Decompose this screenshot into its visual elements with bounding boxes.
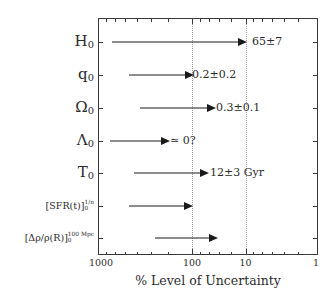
ylabel-q0-subscript: 0 xyxy=(88,72,94,83)
ytick-h0 xyxy=(98,42,103,43)
xtick-minor xyxy=(137,252,138,256)
arrow-t0-shaft xyxy=(134,173,202,174)
annotation-q0: 0.2±0.2 xyxy=(192,68,236,81)
arrow-h0-shaft xyxy=(112,42,240,43)
x-axis-title: % Level of Uncertainty xyxy=(98,273,318,288)
ytick-right-sfr xyxy=(313,206,318,207)
xtick-major-100 xyxy=(192,249,193,255)
ytick-sfr xyxy=(98,206,103,207)
ylabel-q0: q0 xyxy=(78,67,94,84)
xtick-minor xyxy=(200,252,201,256)
annotation-h0: 65±7 xyxy=(252,35,282,48)
xtick-top-major xyxy=(98,18,99,24)
arrow-lambda0-head xyxy=(161,137,170,145)
xtick-top-minor xyxy=(253,18,254,22)
ylabel-lambda0-subscript: 0 xyxy=(88,138,94,149)
arrow-q0-shaft xyxy=(129,75,187,76)
xtick-minor xyxy=(272,252,273,256)
ytick-right-density xyxy=(313,238,318,239)
xtick-top-minor xyxy=(209,18,210,22)
ytick-right-t0 xyxy=(313,173,318,174)
plot-frame xyxy=(98,18,318,255)
xtick-minor xyxy=(115,252,116,256)
xtick-top-major xyxy=(246,18,247,24)
xtick-minor xyxy=(151,252,152,256)
ytick-omega0 xyxy=(98,108,103,109)
xtick-major-10 xyxy=(246,249,247,255)
ylabel-h0: H0 xyxy=(75,34,94,51)
arrow-omega0-shaft xyxy=(140,108,209,109)
xtick-major-1000 xyxy=(98,249,99,255)
ylabel-omega0: Ω0 xyxy=(75,100,94,117)
xtick-top-minor xyxy=(115,18,116,22)
ytick-right-h0 xyxy=(313,42,318,43)
annotation-t0: 12±3 Gyr xyxy=(210,166,264,179)
ytick-right-omega0 xyxy=(313,108,318,109)
gridline-10 xyxy=(246,18,247,255)
xtick-top-minor xyxy=(231,18,232,22)
xtick-minor xyxy=(298,252,299,256)
ytick-right-lambda0 xyxy=(313,141,318,142)
ylabel-h0-symbol: H xyxy=(75,32,88,50)
xtick-minor xyxy=(168,252,169,256)
xtick-minor xyxy=(284,252,285,256)
arrow-omega0-head xyxy=(207,104,216,112)
ylabel-sfr-symbol: [SFR(t)] xyxy=(46,200,85,211)
xtick-top-minor xyxy=(168,18,169,22)
ylabel-density: [Δρ/ρ(R)]100 Mpc0 xyxy=(25,232,94,244)
ylabel-density-superscript: 100 Mpc xyxy=(68,231,94,237)
xticklabel-1: 1 xyxy=(313,257,319,268)
xtick-minor xyxy=(219,252,220,256)
ylabel-density-symbol: [Δρ/ρ(R)] xyxy=(25,232,68,243)
xtick-top-minor xyxy=(284,18,285,22)
arrow-density-shaft xyxy=(155,238,211,239)
ytick-lambda0 xyxy=(98,141,103,142)
ylabel-sfr-subsup: 1/n0 xyxy=(84,199,94,211)
xtick-top-minor xyxy=(219,18,220,22)
ytick-density xyxy=(98,238,103,239)
xtick-top-minor xyxy=(298,18,299,22)
ylabel-sfr-subscript: 0 xyxy=(84,205,94,211)
ylabel-density-subsup: 100 Mpc0 xyxy=(68,231,94,243)
xtick-minor xyxy=(231,252,232,256)
arrow-sfr-shaft xyxy=(129,206,186,207)
arrow-t0-head xyxy=(200,169,209,177)
ylabel-h0-subscript: 0 xyxy=(88,39,94,50)
arrow-density-head xyxy=(209,234,218,242)
xtick-top-minor xyxy=(262,18,263,22)
xtick-top-minor xyxy=(137,18,138,22)
xticklabel-10: 10 xyxy=(239,257,251,268)
ylabel-lambda0-symbol: Λ xyxy=(77,131,88,149)
ylabel-omega0-symbol: Ω xyxy=(75,98,87,116)
xtick-minor xyxy=(106,252,107,256)
uncertainty-chart-figure: H0 q0 Ω0 Λ0 T0 [SFR(t)]1/n0 [Δρ/ρ(R)]100… xyxy=(0,0,334,298)
xtick-top-minor xyxy=(125,18,126,22)
xtick-minor xyxy=(253,252,254,256)
xtick-top-minor xyxy=(200,18,201,22)
xtick-top-minor xyxy=(272,18,273,22)
ylabel-t0-symbol: T xyxy=(78,163,88,181)
ytick-right-q0 xyxy=(313,75,318,76)
xticklabel-1000: 1000 xyxy=(89,257,113,268)
ylabel-sfr: [SFR(t)]1/n0 xyxy=(46,200,94,212)
xticklabel-100: 100 xyxy=(183,257,201,268)
ylabel-t0: T0 xyxy=(78,165,94,182)
ylabel-q0-symbol: q xyxy=(78,65,88,83)
xtick-minor xyxy=(125,252,126,256)
annotation-lambda0: ≃ 0? xyxy=(170,134,196,147)
ylabel-density-subscript: 0 xyxy=(68,237,94,243)
arrow-lambda0-shaft xyxy=(110,141,163,142)
xtick-major-1 xyxy=(317,249,318,255)
ytick-t0 xyxy=(98,173,103,174)
xtick-top-minor xyxy=(151,18,152,22)
ytick-q0 xyxy=(98,75,103,76)
xtick-top-major xyxy=(317,18,318,24)
ylabel-lambda0: Λ0 xyxy=(77,133,94,150)
arrow-h0-head xyxy=(238,38,247,46)
xtick-minor xyxy=(209,252,210,256)
xtick-top-major xyxy=(192,18,193,24)
ylabel-t0-subscript: 0 xyxy=(88,170,94,181)
annotation-omega0: 0.3±0.1 xyxy=(216,101,260,114)
xtick-minor xyxy=(262,252,263,256)
xtick-top-minor xyxy=(106,18,107,22)
